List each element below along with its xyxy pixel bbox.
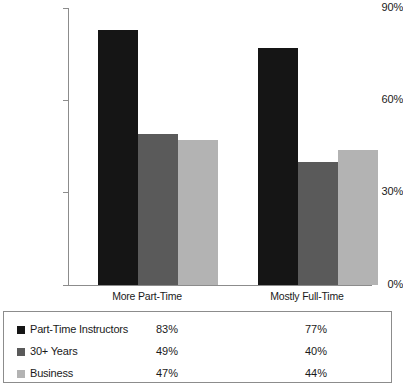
- bar-1-1: [98, 30, 138, 285]
- legend-series-label: Part-Time Instructors: [30, 322, 128, 336]
- legend-value-mostly-full-time: 77%: [286, 322, 346, 336]
- x-axis-label-mostly-full-time: Mostly Full-Time: [252, 290, 362, 302]
- legend-row: 30+ Years49%40%: [4, 341, 391, 363]
- bar-2-1: [258, 48, 298, 285]
- legend-series-label: 30+ Years: [30, 344, 77, 358]
- bar-2-2: [298, 162, 338, 285]
- bar-1-2: [138, 134, 178, 285]
- legend-value-more-part-time: 49%: [137, 344, 197, 358]
- legend-value-mostly-full-time: 44%: [286, 366, 346, 380]
- legend-row: Business47%44%: [4, 363, 391, 385]
- bar-chart: 90% 60% 30% 0% More Part-Time Mostly Ful…: [0, 0, 403, 390]
- legend-value-more-part-time: 83%: [137, 322, 197, 336]
- legend-swatch-icon: [17, 348, 25, 356]
- bar-2-3: [338, 150, 378, 285]
- plot-area: 90% 60% 30% 0% More Part-Time Mostly Ful…: [0, 0, 403, 306]
- bars-layer: [0, 0, 403, 306]
- legend-row: Part-Time Instructors83%77%: [4, 319, 391, 341]
- x-axis-label-more-part-time: More Part-Time: [92, 290, 202, 302]
- legend-value-more-part-time: 47%: [137, 366, 197, 380]
- legend-data-table: Part-Time Instructors83%77%30+ Years49%4…: [3, 311, 392, 383]
- bar-1-3: [178, 140, 218, 285]
- legend-swatch-icon: [17, 326, 25, 334]
- legend-swatch-icon: [17, 370, 25, 378]
- legend-series-label: Business: [30, 366, 73, 380]
- legend-value-mostly-full-time: 40%: [286, 344, 346, 358]
